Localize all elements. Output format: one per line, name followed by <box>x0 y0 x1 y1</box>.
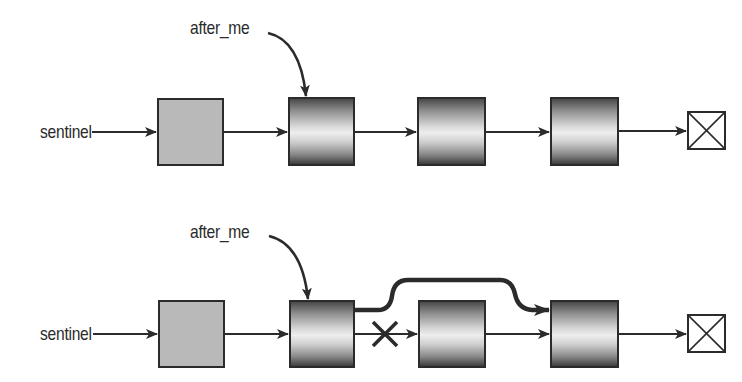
linked-list-removal-diagram: sentinel after_me sentinel after_me <box>0 0 742 382</box>
after-me-pointer-arrow-bottom <box>269 236 308 299</box>
connector-layer <box>0 0 742 382</box>
after-me-pointer-arrow-top <box>268 33 306 96</box>
bypass-link-arrow <box>355 280 549 310</box>
top-row-links <box>92 33 686 132</box>
bottom-row-links <box>93 236 686 346</box>
